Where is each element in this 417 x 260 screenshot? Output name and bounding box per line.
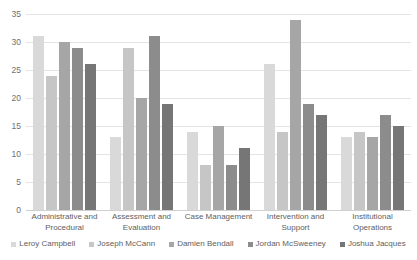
- bar-slot: [46, 14, 57, 210]
- bar-chart: 05101520253035 Administrative and Proced…: [0, 0, 417, 260]
- bar[interactable]: [341, 137, 352, 210]
- bar-slot: [213, 14, 224, 210]
- bar-slot: [187, 14, 198, 210]
- bar[interactable]: [59, 42, 70, 210]
- bar[interactable]: [46, 76, 57, 210]
- bar[interactable]: [187, 132, 198, 210]
- bar-slot: [59, 14, 70, 210]
- legend-label: Joshua Jacques: [348, 240, 406, 248]
- legend-swatch-icon: [248, 242, 253, 247]
- bar-group: [334, 14, 411, 210]
- bar-slot: [367, 14, 378, 210]
- gridline: [26, 210, 411, 211]
- x-axis-category-labels: Administrative and ProceduralAssessment …: [26, 212, 411, 233]
- bar-slot: [264, 14, 275, 210]
- legend-label: Leroy Campbell: [19, 240, 75, 248]
- legend-item[interactable]: Joshua Jacques: [340, 240, 406, 248]
- x-axis-category-label: Intervention and Support: [257, 212, 334, 233]
- bar[interactable]: [72, 48, 83, 210]
- bar[interactable]: [162, 104, 173, 210]
- bar[interactable]: [110, 137, 121, 210]
- bar-slot: [239, 14, 250, 210]
- legend-item[interactable]: Jordan McSweeney: [248, 240, 326, 248]
- bar[interactable]: [277, 132, 288, 210]
- bar-slot: [123, 14, 134, 210]
- legend-swatch-icon: [89, 242, 94, 247]
- bar-slot: [393, 14, 404, 210]
- legend-item[interactable]: Leroy Campbell: [11, 240, 75, 248]
- y-axis-tick-label: 30: [12, 38, 21, 47]
- bar-group: [180, 14, 257, 210]
- bar-groups: [26, 14, 411, 210]
- bar[interactable]: [367, 137, 378, 210]
- legend-swatch-icon: [340, 242, 345, 247]
- legend-item[interactable]: Joseph McCann: [89, 240, 155, 248]
- bar[interactable]: [316, 115, 327, 210]
- y-axis-tick-label: 20: [12, 94, 21, 103]
- legend-label: Damien Bendall: [177, 240, 233, 248]
- bar-slot: [303, 14, 314, 210]
- bar-slot: [226, 14, 237, 210]
- legend-swatch-icon: [169, 242, 174, 247]
- y-axis-tick-label: 35: [12, 10, 21, 19]
- y-axis-tick-label: 5: [16, 178, 21, 187]
- bar[interactable]: [123, 48, 134, 210]
- bar[interactable]: [380, 115, 391, 210]
- bar-slot: [380, 14, 391, 210]
- bar[interactable]: [290, 20, 301, 210]
- legend-swatch-icon: [11, 242, 16, 247]
- bar-slot: [149, 14, 160, 210]
- y-axis-tick-label: 10: [12, 150, 21, 159]
- bar-slot: [110, 14, 121, 210]
- chart-legend: Leroy CampbellJoseph McCannDamien Bendal…: [0, 240, 417, 248]
- bar[interactable]: [264, 64, 275, 210]
- x-axis-category-label: Administrative and Procedural: [26, 212, 103, 233]
- bar-group: [26, 14, 103, 210]
- bar-group: [103, 14, 180, 210]
- bar[interactable]: [303, 104, 314, 210]
- y-axis-tick-label: 15: [12, 122, 21, 131]
- bar[interactable]: [200, 165, 211, 210]
- plot-area: 05101520253035: [26, 14, 411, 210]
- bar[interactable]: [354, 132, 365, 210]
- bar-slot: [85, 14, 96, 210]
- bar-slot: [72, 14, 83, 210]
- legend-label: Jordan McSweeney: [256, 240, 326, 248]
- y-axis-tick-label: 25: [12, 66, 21, 75]
- x-axis-category-label: Case Management: [180, 212, 257, 233]
- legend-label: Joseph McCann: [97, 240, 155, 248]
- bar-slot: [200, 14, 211, 210]
- bar[interactable]: [33, 36, 44, 210]
- legend-item[interactable]: Damien Bendall: [169, 240, 233, 248]
- y-axis-tick-label: 0: [16, 206, 21, 215]
- bar-slot: [33, 14, 44, 210]
- bar[interactable]: [393, 126, 404, 210]
- bar[interactable]: [136, 98, 147, 210]
- bar[interactable]: [85, 64, 96, 210]
- bar-slot: [162, 14, 173, 210]
- x-axis-category-label: Institutional Operations: [334, 212, 411, 233]
- bar[interactable]: [226, 165, 237, 210]
- bar-slot: [316, 14, 327, 210]
- bar[interactable]: [213, 126, 224, 210]
- bar-slot: [354, 14, 365, 210]
- bar-slot: [136, 14, 147, 210]
- bar-slot: [277, 14, 288, 210]
- bar[interactable]: [239, 148, 250, 210]
- bar[interactable]: [149, 36, 160, 210]
- bar-slot: [341, 14, 352, 210]
- x-axis-category-label: Assessment and Evaluation: [103, 212, 180, 233]
- bar-group: [257, 14, 334, 210]
- bar-slot: [290, 14, 301, 210]
